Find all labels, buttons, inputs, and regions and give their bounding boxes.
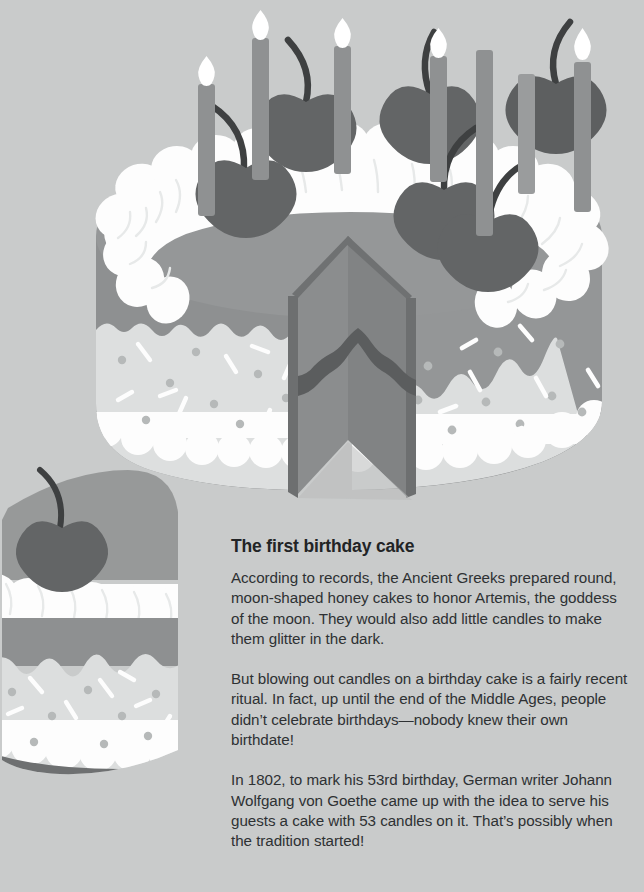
candle — [252, 10, 269, 180]
candle — [430, 28, 447, 182]
candle — [198, 56, 215, 216]
paragraph-3: In 1802, to mark his 53rd birthday, Germ… — [231, 770, 631, 851]
candle — [334, 18, 351, 174]
candle — [476, 50, 493, 236]
candle — [574, 28, 591, 212]
paragraph-1: According to records, the Ancient Greeks… — [231, 568, 631, 649]
paragraph-2: But blowing out candles on a birthday ca… — [231, 669, 631, 750]
cake-slice — [0, 460, 206, 800]
page-title: The first birthday cake — [231, 536, 631, 557]
article: The first birthday cake According to rec… — [231, 536, 631, 852]
candle — [518, 74, 535, 194]
